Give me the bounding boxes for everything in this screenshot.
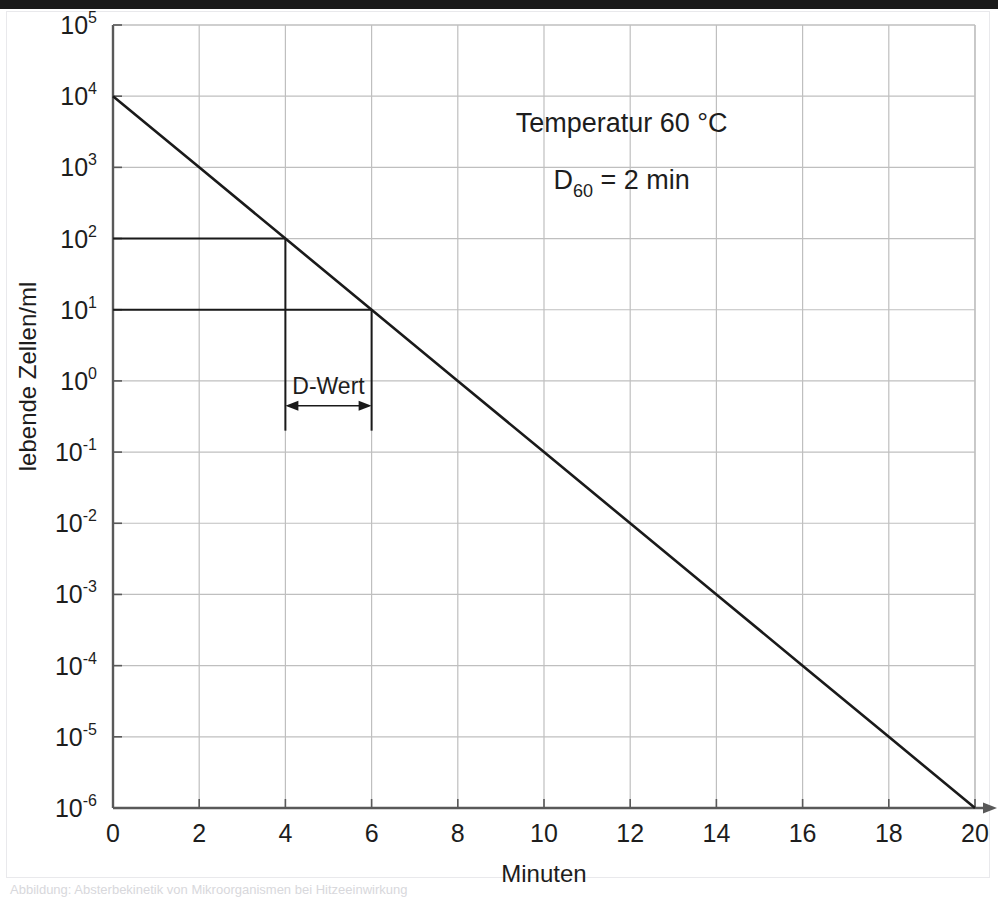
y-tick-label: 10-3	[55, 578, 97, 608]
y-tick-label: 103	[60, 151, 97, 181]
x-tick-label: 18	[875, 819, 903, 847]
x-tick-label: 20	[961, 819, 989, 847]
y-tick-label: 10-6	[55, 792, 97, 822]
x-axis-title: Minuten	[501, 860, 586, 887]
gridlines-group	[113, 25, 975, 808]
x-tick-label: 14	[702, 819, 730, 847]
y-tick-label: 102	[60, 223, 97, 253]
figure-caption: Abbildung: Absterbekinetik von Mikroorga…	[10, 882, 407, 897]
y-tick-label: 105	[60, 9, 97, 39]
x-tick-label: 6	[365, 819, 379, 847]
x-tick-label: 16	[789, 819, 817, 847]
survival-curve-chart: 10510410310210110010-110-210-310-410-510…	[0, 9, 998, 889]
annotation-temperature: Temperatur 60 °C	[516, 108, 728, 138]
x-tick-label: 12	[616, 819, 644, 847]
y-tick-label: 10-4	[55, 650, 97, 680]
y-tick-label: 10-5	[55, 721, 97, 751]
x-tick-label: 0	[106, 819, 120, 847]
y-tick-label: 10-2	[55, 507, 97, 537]
x-tick-label: 2	[192, 819, 206, 847]
y-tick-label: 104	[60, 80, 97, 110]
y-tick-label: 100	[60, 365, 97, 395]
figure-root: 10510410310210110010-110-210-310-410-510…	[0, 0, 998, 900]
d-wert-label: D-Wert	[292, 373, 365, 399]
x-tick-label: 4	[278, 819, 292, 847]
y-axis-title: lebende Zellen/ml	[14, 282, 41, 471]
x-axis-arrowhead	[983, 803, 997, 814]
x-tick-label: 8	[451, 819, 465, 847]
y-tick-label: 10-1	[55, 436, 97, 466]
y-tick-label: 101	[60, 294, 97, 324]
x-tick-label: 10	[530, 819, 558, 847]
top-black-bar	[0, 0, 998, 9]
